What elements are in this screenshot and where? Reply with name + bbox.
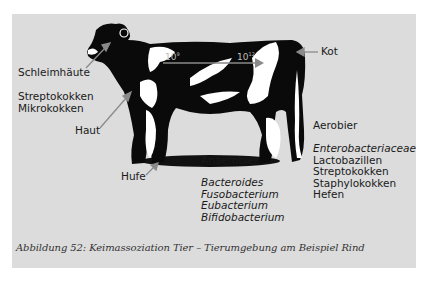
label-hufe: Hufe bbox=[121, 171, 146, 183]
skin-organism-list: Streptokokken Mikrokokken bbox=[18, 91, 94, 114]
label-kot: Kot bbox=[321, 46, 338, 58]
label-aerobier: Aerobier bbox=[313, 120, 357, 132]
figure-caption: Abbildung 52: Keimassoziation Tier – Tie… bbox=[16, 242, 365, 253]
label-anaerobier: Anaerobier bbox=[201, 155, 259, 167]
anaerobe-list: Bacteroides Fusobacterium Eubacterium Bi… bbox=[201, 177, 285, 223]
arrow-haut bbox=[100, 97, 127, 128]
gradient-start-label: 109 bbox=[165, 51, 180, 62]
skin-organism: Mikrokokken bbox=[18, 103, 94, 115]
aerobe-item: Enterobacteriaceae bbox=[313, 143, 416, 155]
label-haut: Haut bbox=[75, 125, 100, 137]
aerobe-list: Enterobacteriaceae Lactobazillen Strepto… bbox=[313, 143, 416, 201]
skin-organism: Streptokokken bbox=[18, 91, 94, 103]
gradient-end-label: 1012 bbox=[237, 51, 255, 62]
aerobe-item: Hefen bbox=[313, 189, 416, 201]
anaerobe-item: Eubacterium bbox=[201, 200, 285, 212]
cow-illustration bbox=[0, 0, 431, 282]
aerobe-item: Streptokokken bbox=[313, 166, 416, 178]
label-schleimhaeute: Schleimhäute bbox=[18, 67, 90, 79]
anaerobe-item: Bacteroides bbox=[201, 177, 285, 189]
anaerobe-item: Bifidobacterium bbox=[201, 212, 285, 224]
